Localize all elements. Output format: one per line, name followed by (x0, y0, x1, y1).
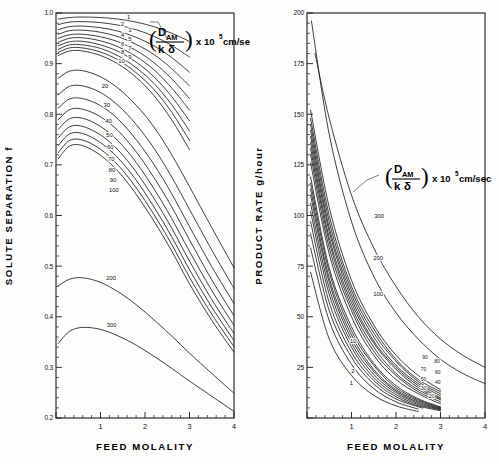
legend-paren-open: ( (385, 164, 393, 189)
curve-label: 20 (102, 83, 109, 89)
x-tick-label: 1 (349, 422, 353, 431)
curve-label: 300 (107, 322, 118, 328)
data-curve (311, 21, 485, 383)
data-curve (58, 50, 189, 149)
y-tick-label: 175 (294, 60, 305, 67)
chart-product-rate: 2550751001251501752001234300300200200100… (249, 0, 499, 464)
legend-numerator-subscript: AM (402, 170, 414, 179)
curve-label: 70 (108, 156, 115, 162)
curve-group (311, 21, 485, 411)
data-curve (58, 132, 234, 340)
curve-label: 5 (128, 36, 132, 42)
data-curve (58, 70, 234, 268)
curve-label: 1 (350, 380, 353, 386)
legend-leader-line (353, 175, 379, 192)
y-tick-label: 0.3 (44, 364, 53, 371)
y-tick-label: 0.8 (44, 111, 53, 118)
y-tick-label: 200 (294, 9, 305, 16)
y-tick-label: 100 (294, 212, 305, 219)
curve-label: 7 (128, 45, 131, 51)
plot-area: 0.20.30.40.50.60.70.80.91.01234112233445… (3, 9, 250, 452)
y-axis: 0.20.30.40.50.60.70.80.91.0 (44, 9, 62, 421)
legend-denominator: k (158, 43, 165, 55)
plot-area: 2550751001251501752001234300300200200100… (253, 9, 491, 452)
y-axis-title: PRODUCT RATE g/hour (253, 146, 264, 284)
legend-paren-open: ( (149, 27, 157, 52)
data-curve (58, 144, 234, 352)
y-tick-label: 0.9 (44, 60, 53, 67)
curve-label: 40 (105, 118, 112, 124)
x-axis: 1234 (56, 412, 236, 431)
curve-label: 50 (421, 376, 427, 382)
x-tick-label: 4 (483, 422, 487, 431)
legend-units: cm/sec (459, 173, 491, 184)
curve-label: 60 (435, 369, 441, 375)
curve-label: 200 (106, 275, 117, 281)
x-tick-label: 2 (394, 422, 398, 431)
curve-label: 6 (121, 41, 125, 47)
curve-label: 10 (118, 58, 125, 64)
chart-solute-separation: 0.20.30.40.50.60.70.80.91.01234112233445… (0, 0, 250, 464)
y-tick-label: 75 (297, 263, 304, 270)
data-curve (58, 108, 234, 315)
curve-label: 20 (429, 393, 435, 399)
x-axis-title: FEED MOLALITY (96, 441, 194, 452)
y-tick-label: 25 (297, 364, 304, 371)
y-tick-label: 150 (294, 111, 305, 118)
curve-label: 30 (103, 102, 110, 108)
figure-root: 0.20.30.40.50.60.70.80.91.01234112233445… (0, 0, 499, 464)
legend-numerator-subscript: AM (166, 33, 178, 42)
curve-label: 80 (109, 167, 116, 173)
y-tick-label: 125 (294, 161, 305, 168)
data-curve (58, 278, 234, 394)
curve-label: 9 (128, 54, 131, 60)
y-tick-label: 0.7 (44, 161, 53, 168)
legend-paren-close: ) (421, 164, 429, 189)
plot-frame (307, 13, 485, 418)
curve-label: 80 (434, 358, 440, 364)
y-tick-label: 0.5 (44, 263, 53, 270)
y-axis: 255075100125150175200 (294, 9, 313, 418)
x-tick-label: 3 (438, 422, 442, 431)
y-tick-label: 0.4 (44, 313, 53, 320)
curve-label: 1 (127, 14, 130, 20)
curve-label: 300 (374, 213, 385, 219)
x-axis-title: FEED MOLALITY (347, 441, 445, 452)
curve-label: 10 (350, 338, 357, 344)
x-tick-label: 1 (98, 422, 102, 431)
x-tick-label: 2 (143, 422, 147, 431)
data-curve (58, 125, 234, 333)
curve-label: 90 (422, 354, 428, 360)
x-axis: 1234 (307, 412, 487, 431)
curve-label: 2 (121, 21, 124, 27)
legend-group: (DAMkδ)x 105cm/sec (385, 163, 491, 192)
legend-denominator: k (394, 180, 401, 192)
curve-label: 2 (351, 368, 354, 374)
solute-separation-plot: 0.20.30.40.50.60.70.80.91.01234112233445… (0, 0, 250, 464)
legend-denominator-symbol: δ (404, 180, 411, 192)
y-tick-label: 0.2 (44, 414, 53, 421)
legend-group: (DAMkδ)x 105cm/sec (149, 26, 250, 55)
plot-frame (56, 13, 234, 418)
curve-label: 90 (110, 177, 117, 183)
curve-label: 40 (435, 379, 441, 385)
curve-label: 30 (421, 385, 427, 391)
legend-multiplier: x 10 (432, 173, 451, 184)
y-tick-label: 0.6 (44, 212, 53, 219)
legend-multiplier: x 10 (196, 36, 215, 47)
legend-units: cm/sec (223, 36, 250, 47)
x-tick-label: 4 (232, 422, 236, 431)
product-rate-plot: 2550751001251501752001234300300200200100… (249, 0, 499, 464)
y-tick-label: 1.0 (44, 9, 53, 16)
curve-label: 100 (373, 291, 384, 297)
curve-label: 70 (421, 366, 427, 372)
curve-label: 60 (107, 144, 114, 150)
curve-label-group: 3003002002001001009090808070706060505040… (350, 213, 441, 399)
x-tick-label: 3 (187, 422, 191, 431)
legend-denominator-symbol: δ (168, 43, 175, 55)
curve-label: 50 (106, 132, 113, 138)
legend-paren-close: ) (185, 27, 193, 52)
curve-group (58, 17, 234, 411)
y-axis-title: SOLUTE SEPARATION f (3, 146, 14, 285)
data-curve (58, 117, 234, 325)
